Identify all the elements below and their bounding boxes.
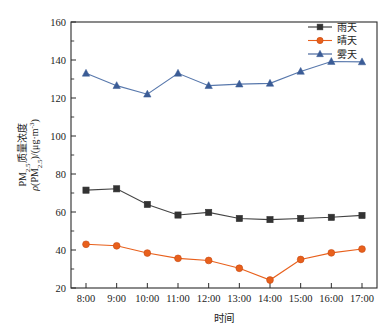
series-1 [83,186,365,223]
data-point [236,265,243,272]
data-point [297,256,304,263]
y-tick-label: 100 [50,131,66,142]
legend-marker [317,37,323,43]
x-tick-label: 12:00 [197,293,221,304]
x-tick-label: 9:00 [107,293,126,304]
y-tick-label: 120 [50,93,66,104]
x-tick-label: 13:00 [227,293,251,304]
x-tick-label: 16:00 [319,293,343,304]
data-point [205,257,212,264]
x-tick-label: 17:00 [350,293,374,304]
x-tick-label: 11:00 [166,293,190,304]
data-point [328,58,335,65]
x-tick-label: 8:00 [77,293,96,304]
data-point [175,212,181,218]
y-axis: 20406080100120140160 [50,17,76,294]
data-point [83,241,90,248]
data-point [82,69,89,76]
data-point [114,186,120,192]
x-axis-title: 时间 [214,312,234,324]
y-tick-label: 80 [56,169,67,180]
series-3 [82,58,365,98]
y-tick-label: 140 [50,55,66,66]
y-tick-label: 160 [50,17,66,28]
data-point [144,201,150,207]
data-point [267,217,273,223]
data-point [174,69,181,76]
data-point [328,214,334,220]
x-tick-label: 10:00 [135,293,159,304]
legend-label: 晴天 [337,34,357,46]
y-axis-title: PM2.5质量浓度ρ(PM2.5)/(μg·m-3) [16,119,44,191]
y-tick-label: 60 [56,207,67,218]
y-axis-title-line2: ρ(PM2.5)/(μg·m-3) [28,119,44,191]
legend-label: 雾天 [337,49,357,60]
legend-marker [317,24,323,30]
y-tick-label: 20 [56,283,67,294]
data-point [328,249,335,256]
x-tick-label: 15:00 [289,293,313,304]
data-point [298,215,304,221]
x-tick-label: 14:00 [258,293,282,304]
x-axis: 8:009:0010:0011:0012:0013:0014:0015:0016… [77,283,374,304]
legend-label: 雨天 [337,22,357,33]
series-line [86,244,362,280]
chart-figure: 204060801001201401608:009:0010:0011:0012… [0,0,388,334]
data-point [83,187,89,193]
data-point [359,246,366,253]
data-point [175,255,182,262]
series-line [86,62,362,95]
data-point [359,212,365,218]
data-point [113,242,120,249]
series-2 [83,241,366,284]
series-line [86,189,362,220]
data-point [144,250,151,257]
y-tick-label: 40 [56,245,67,256]
pm25-line-chart: 204060801001201401608:009:0010:0011:0012… [0,0,388,334]
data-point [236,215,242,221]
data-point [206,209,212,215]
data-point [267,277,274,284]
legend: 雨天晴天雾天 [308,22,357,60]
